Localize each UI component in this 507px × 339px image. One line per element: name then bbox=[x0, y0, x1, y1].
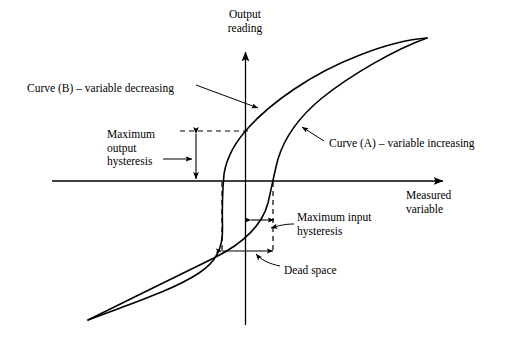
x-axis-label-line2: variable bbox=[406, 203, 443, 215]
curve-b-leader bbox=[196, 85, 258, 108]
max-input-hysteresis-leader bbox=[271, 224, 294, 228]
curve-a-annotation: Curve (A) – variable increasing bbox=[329, 137, 475, 150]
max-output-hysteresis-label-line3: hysteresis bbox=[107, 155, 153, 168]
curve-a-leader bbox=[302, 127, 324, 141]
max-output-hysteresis-label-line2: output bbox=[107, 142, 137, 155]
y-axis-label-line1: Output bbox=[229, 8, 262, 21]
figure-canvas: Output reading Measured variable Curve (… bbox=[0, 0, 507, 339]
dimension-arrows-group bbox=[196, 134, 274, 251]
max-input-hysteresis-label-line2: hysteresis bbox=[297, 225, 343, 238]
curve-a-variable-increasing bbox=[88, 38, 427, 320]
max-input-hysteresis-label-line1: Maximum input bbox=[297, 211, 372, 224]
y-axis-label-line2: reading bbox=[228, 22, 263, 35]
dead-space-leader bbox=[256, 254, 280, 266]
x-axis-label-line1: Measured bbox=[406, 189, 452, 201]
max-output-hysteresis-label-line1: Maximum bbox=[107, 128, 155, 140]
curves-group bbox=[88, 38, 427, 320]
hysteresis-figure: Output reading Measured variable Curve (… bbox=[0, 0, 507, 339]
curve-b-annotation: Curve (B) – variable decreasing bbox=[27, 82, 174, 95]
construction-lines-group bbox=[180, 131, 273, 252]
dead-space-label: Dead space bbox=[284, 264, 337, 277]
labels-group: Output reading Measured variable Curve (… bbox=[27, 8, 475, 277]
curve-b-variable-decreasing bbox=[88, 38, 427, 320]
